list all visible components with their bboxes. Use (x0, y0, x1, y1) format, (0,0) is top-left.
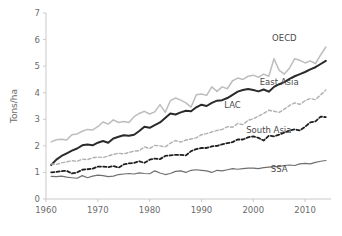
series-label-lac: LAC (224, 100, 241, 110)
x-tick-label: 1970 (87, 205, 109, 215)
series-label-ssa: SSA (271, 164, 288, 174)
axis-ticks (43, 13, 305, 202)
x-tick-labels: 196019701980199020002010 (35, 205, 316, 215)
x-tick-label: 1960 (35, 205, 57, 215)
yield-line-chart: 01234567 196019701980199020002010 OECDEa… (0, 0, 342, 236)
series-lines (51, 47, 326, 178)
y-tick-label: 0 (35, 194, 40, 204)
y-tick-label: 5 (35, 61, 40, 71)
y-tick-label: 2 (35, 141, 40, 151)
x-tick-label: 1980 (139, 205, 161, 215)
x-tick-label: 1990 (191, 205, 213, 215)
y-tick-label: 4 (35, 88, 40, 98)
y-tick-labels: 01234567 (35, 8, 40, 204)
chart-canvas: 01234567 196019701980199020002010 OECDEa… (0, 0, 342, 236)
y-tick-label: 6 (35, 35, 40, 45)
series-label-south-asia: South Asia (246, 125, 291, 135)
y-tick-label: 1 (35, 167, 40, 177)
series-labels: OECDEast AsiaLACSouth AsiaSSA (224, 33, 298, 174)
y-tick-label: 7 (35, 8, 40, 18)
series-label-oecd: OECD (272, 33, 297, 43)
y-axis-title: Tons/ha (9, 89, 19, 124)
series-label-east-asia: East Asia (260, 77, 299, 87)
x-tick-label: 2000 (242, 205, 264, 215)
x-tick-label: 2010 (294, 205, 316, 215)
y-tick-label: 3 (35, 114, 40, 124)
